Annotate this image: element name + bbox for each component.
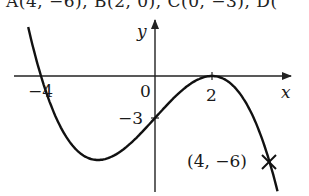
cubic-graph: y x 0 −4 2 −3 (4, −6) (0, 0, 309, 196)
y-axis-label: y (136, 21, 147, 41)
y-tick-label-neg3: −3 (118, 108, 143, 128)
origin-label: 0 (140, 81, 151, 101)
point-label: (4, −6) (187, 151, 247, 171)
x-tick-label-2: 2 (206, 85, 217, 105)
x-tick-label-neg4: −4 (28, 81, 53, 101)
x-axis-label: x (281, 82, 291, 102)
